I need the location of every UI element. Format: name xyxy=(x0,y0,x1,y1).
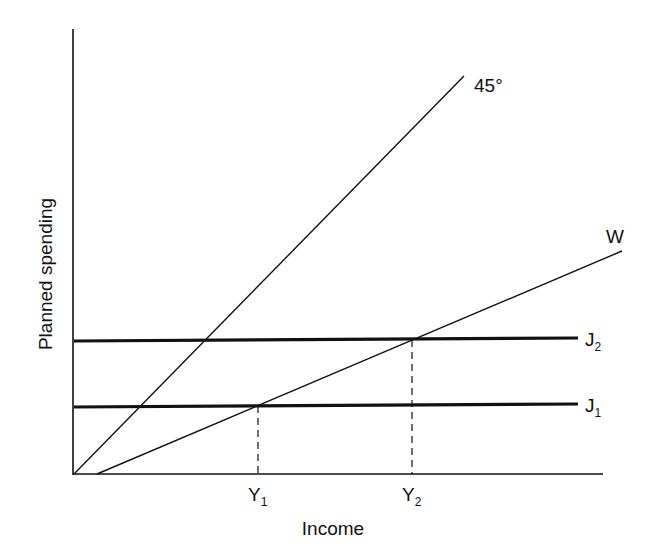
tick-y1-sub: 1 xyxy=(261,495,268,509)
tick-label-y1: Y1 xyxy=(248,484,268,509)
label-45-degree: 45° xyxy=(474,75,503,96)
tick-y2-sub: 2 xyxy=(415,495,422,509)
label-j2-main: J xyxy=(585,329,595,350)
label-j2: J2 xyxy=(585,329,602,354)
label-j2-sub: 2 xyxy=(595,340,602,354)
x-axis-title: Income xyxy=(302,518,364,539)
label-j1-sub: 1 xyxy=(595,406,602,420)
label-j1: J1 xyxy=(585,395,602,420)
label-w: W xyxy=(606,226,624,247)
line-45-degree xyxy=(74,76,464,474)
label-j1-main: J xyxy=(585,395,595,416)
line-w xyxy=(97,251,622,474)
tick-y2-main: Y xyxy=(402,484,415,505)
tick-label-y2: Y2 xyxy=(402,484,422,509)
line-j1 xyxy=(74,404,578,407)
tick-y1-main: Y xyxy=(248,484,261,505)
chart-canvas: 45° W J2 J1 Y1 Y2 Income Planned spendin… xyxy=(0,0,654,558)
y-axis-title: Planned spending xyxy=(35,198,56,350)
line-j2 xyxy=(74,338,578,341)
